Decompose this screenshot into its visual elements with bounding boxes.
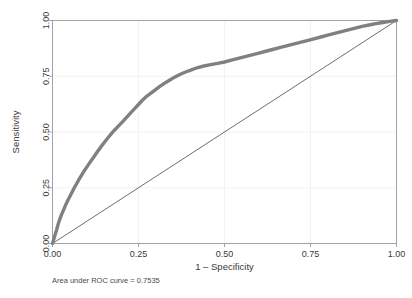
y-tick-label: 1.00 <box>41 12 51 30</box>
y-tick-label: 0.25 <box>41 179 51 197</box>
y-tick-label: 0.50 <box>41 123 51 141</box>
x-tick-label: 0.75 <box>302 249 320 259</box>
x-tick-label: 0.25 <box>130 249 148 259</box>
roc-chart-figure: 0.000.250.500.751.00 0.000.250.500.751.0… <box>0 0 412 298</box>
y-axis-title: Sensitivity <box>10 110 21 153</box>
x-tick-label: 1.00 <box>388 249 406 259</box>
y-tick-label: 0.75 <box>41 67 51 85</box>
roc-plot-svg: 0.000.250.500.751.00 0.000.250.500.751.0… <box>0 0 412 298</box>
x-tick-label: 0.50 <box>216 249 234 259</box>
figure-background <box>0 0 412 298</box>
x-axis-title: 1 – Specificity <box>195 261 254 272</box>
auc-annotation: Area under ROC curve = 0.7535 <box>52 276 160 285</box>
y-tick-label: 0.00 <box>41 235 51 253</box>
